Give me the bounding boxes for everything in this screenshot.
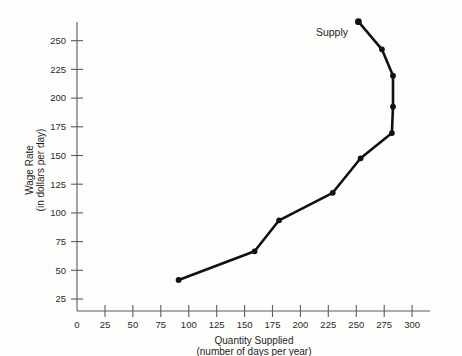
supply-curve-chart: 250 225 200 175 150 125 100 75 50 25: [0, 0, 462, 356]
x-tick-label: 50: [128, 319, 139, 330]
x-tick-labels: 0 25 50 75 100 125 150 175 200 225 250 2…: [74, 319, 420, 330]
data-point: [176, 277, 182, 283]
x-tick-label: 75: [156, 319, 167, 330]
y-tick-label: 100: [50, 207, 66, 218]
data-point: [276, 217, 282, 223]
x-tick-label: 200: [292, 319, 308, 330]
x-tick-label: 275: [376, 319, 392, 330]
supply-curve-line-full: [179, 22, 393, 280]
x-axis-subtitle: (number of days per year): [196, 346, 311, 356]
y-tick-label: 25: [55, 293, 66, 304]
y-tick-label: 75: [55, 236, 66, 247]
y-tick-label: 50: [55, 265, 66, 276]
y-axis-title: Wage Rate: [24, 145, 35, 195]
x-tick-label: 175: [265, 319, 281, 330]
data-point: [330, 190, 336, 196]
y-axis-subtitle: (in dollars per day): [35, 129, 46, 212]
series-label-supply: Supply: [316, 26, 349, 38]
x-tick-label: 150: [237, 319, 253, 330]
data-point: [355, 18, 362, 25]
chart-figure: 250 225 200 175 150 125 100 75 50 25: [0, 0, 462, 356]
data-point: [390, 104, 396, 110]
y-tick-label: 125: [50, 179, 66, 190]
x-tick-label: 25: [100, 319, 111, 330]
y-tick-label: 250: [50, 35, 66, 46]
x-tick-label: 125: [209, 319, 225, 330]
x-tick-label: 0: [74, 319, 79, 330]
x-tick-label: 225: [320, 319, 336, 330]
x-tick-label: 250: [348, 319, 364, 330]
x-tick-label: 300: [404, 319, 420, 330]
x-axis-title: Quantity Supplied: [215, 335, 294, 346]
data-point: [379, 46, 385, 52]
supply-curve-points: [176, 18, 396, 283]
y-tick-label: 150: [50, 150, 66, 161]
x-tick-label: 100: [181, 319, 197, 330]
y-tick-label: 225: [50, 64, 66, 75]
data-point: [390, 73, 396, 79]
data-point: [252, 248, 258, 254]
y-tick-labels: 250 225 200 175 150 125 100 75 50 25: [50, 35, 66, 304]
data-point: [389, 130, 395, 136]
data-point: [358, 155, 364, 161]
y-tick-label: 200: [50, 92, 66, 103]
y-tick-label: 175: [50, 121, 66, 132]
